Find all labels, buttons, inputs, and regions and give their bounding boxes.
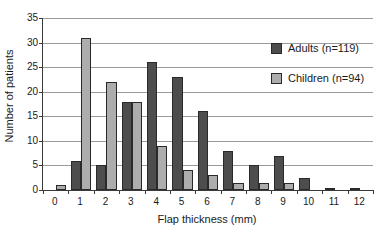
bar-adults-1	[71, 161, 81, 190]
bar-adults-8	[249, 165, 259, 190]
legend-item-adults: Adults (n=119)	[271, 37, 384, 59]
x-axis-tick-label: 8	[255, 196, 261, 208]
bar-adults-2	[96, 165, 106, 190]
x-axis-tick-mark	[322, 190, 323, 194]
histogram-figure: Number of patients 05101520253035 Adults…	[0, 0, 384, 252]
x-axis-tick-label: 1	[77, 196, 83, 208]
x-axis-tick-mark	[246, 190, 247, 194]
x-axis-tick-label: 12	[354, 196, 365, 208]
y-axis-tick-labels: 05101520253035	[16, 18, 38, 190]
bar-adults-11	[325, 188, 335, 190]
bar-children-5	[183, 170, 193, 190]
x-axis-tick-label: 3	[128, 196, 134, 208]
bar-adults-5	[172, 77, 182, 190]
bar-group	[170, 18, 195, 190]
bar-group	[43, 18, 68, 190]
x-axis-tick-mark	[348, 190, 349, 194]
x-axis-tick-mark	[170, 190, 171, 194]
bar-children-8	[259, 183, 269, 190]
bar-children-7	[233, 183, 243, 190]
legend-label: Adults (n=119)	[288, 42, 359, 54]
x-axis-tick-mark	[195, 190, 196, 194]
x-axis-tick-mark	[94, 190, 95, 194]
x-axis-tick-label: 11	[329, 196, 339, 208]
bar-adults-4	[147, 62, 157, 190]
bar-children-1	[81, 38, 91, 190]
bar-children-6	[208, 175, 218, 190]
y-axis-title: Number of patients	[2, 0, 16, 196]
legend-item-children: Children (n=94)	[271, 67, 384, 89]
bar-group	[145, 18, 170, 190]
x-axis-tick-label: 6	[204, 196, 210, 208]
legend-swatch-adults-icon	[271, 43, 282, 54]
y-axis-tick-label: 5	[16, 160, 38, 170]
x-axis-tick-mark	[119, 190, 120, 194]
bar-group	[94, 18, 119, 190]
bar-adults-6	[198, 111, 208, 190]
x-axis-tick-mark	[297, 190, 298, 194]
legend-swatch-children-icon	[271, 73, 282, 84]
bar-children-2	[106, 82, 116, 190]
bar-group	[246, 18, 271, 190]
y-axis-tick-label: 30	[16, 38, 38, 48]
x-axis-tick-label: 7	[230, 196, 236, 208]
x-axis-tick-label: 9	[280, 196, 286, 208]
x-axis-tick-mark	[145, 190, 146, 194]
x-axis-tick-mark	[373, 190, 374, 194]
x-axis-tick-mark	[271, 190, 272, 194]
x-axis-tick-mark	[221, 190, 222, 194]
x-axis-tick-label: 10	[303, 196, 314, 208]
x-axis-tick-mark	[43, 190, 44, 194]
bar-adults-10	[299, 178, 309, 190]
bar-children-9	[284, 183, 294, 190]
x-axis-tick-mark	[68, 190, 69, 194]
bar-adults-9	[274, 156, 284, 190]
legend-label: Children (n=94)	[288, 72, 364, 84]
y-axis-tick-label: 35	[16, 13, 38, 23]
bar-group	[221, 18, 246, 190]
y-axis-tick-label: 10	[16, 136, 38, 146]
bar-group	[119, 18, 144, 190]
plot-area: Adults (n=119)Children (n=94)	[42, 18, 373, 191]
bar-children-4	[157, 146, 167, 190]
x-axis-tick-label: 2	[103, 196, 109, 208]
y-axis-tick-label: 15	[16, 111, 38, 121]
bar-children-3	[132, 102, 142, 190]
x-axis-title: Flap thickness (mm)	[42, 212, 372, 226]
chart-legend: Adults (n=119)Children (n=94)	[271, 37, 384, 97]
y-axis-tick-label: 20	[16, 87, 38, 97]
x-axis-tick-labels: 0123456789101112	[42, 196, 372, 210]
bar-group	[195, 18, 220, 190]
bar-adults-3	[122, 102, 132, 190]
bar-adults-7	[223, 151, 233, 190]
x-axis-tick-label: 5	[179, 196, 185, 208]
bar-children-0	[56, 185, 66, 190]
x-axis-tick-label: 0	[52, 196, 58, 208]
bar-group	[68, 18, 93, 190]
y-axis-tick-label: 25	[16, 62, 38, 72]
y-axis-tick-label: 0	[16, 185, 38, 195]
x-axis-tick-label: 4	[153, 196, 159, 208]
bar-adults-12	[350, 188, 360, 190]
